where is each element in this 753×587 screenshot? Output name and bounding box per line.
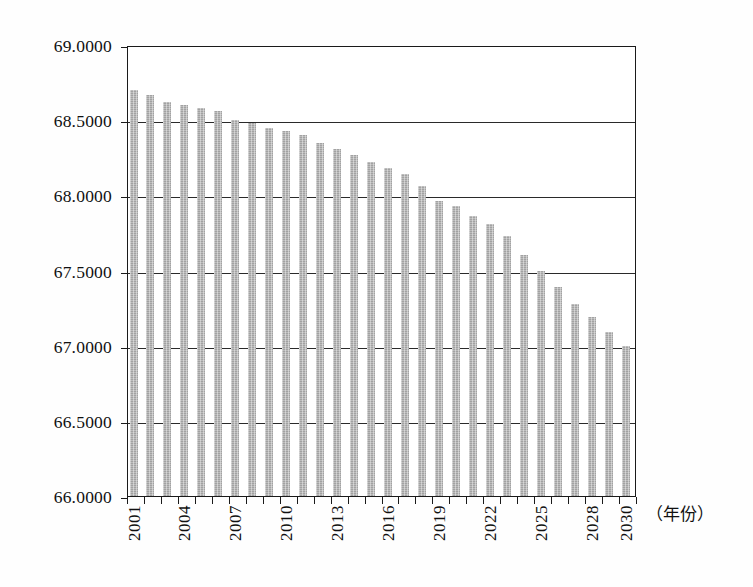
x-tick-label: 2010 [277, 505, 297, 541]
y-tick-mark [121, 273, 128, 274]
x-tick-mark [619, 497, 620, 504]
y-tick-label: 67.0000 [54, 336, 112, 357]
bar [265, 128, 273, 496]
x-tick-mark [229, 497, 230, 504]
bar [214, 111, 222, 496]
x-tick-label: 2016 [379, 505, 399, 541]
y-tick-mark [121, 423, 128, 424]
bar [282, 131, 290, 496]
y-tick-mark [121, 47, 128, 48]
x-tick-label: 2001 [125, 505, 145, 541]
x-tick-label: 2030 [617, 505, 637, 541]
x-tick-label: 2004 [175, 505, 195, 541]
bar [401, 174, 409, 496]
x-tick-mark [534, 497, 535, 504]
x-tick-label: 2007 [226, 505, 246, 541]
bar-chart-figure: 66.000066.500067.000067.500068.000068.50… [0, 0, 753, 587]
plot-area [127, 46, 636, 497]
x-tick-mark [263, 497, 264, 504]
bar [605, 332, 613, 496]
x-tick-label: 2019 [430, 505, 450, 541]
y-tick-label: 67.5000 [54, 261, 112, 282]
bar [554, 287, 562, 496]
x-tick-mark [280, 497, 281, 504]
bar [146, 95, 154, 496]
bar [180, 105, 188, 496]
x-tick-mark [195, 497, 196, 504]
x-axis-unit-label: （年份） [646, 500, 714, 525]
x-tick-mark [314, 497, 315, 504]
bar [537, 271, 545, 497]
bar [384, 168, 392, 496]
x-tick-mark [585, 497, 586, 504]
y-tick-label: 66.0000 [54, 487, 112, 508]
x-tick-label: 2025 [532, 505, 552, 541]
x-tick-label: 2028 [583, 505, 603, 541]
x-tick-label: 2013 [328, 505, 348, 541]
x-tick-mark [297, 497, 298, 504]
y-tick-label: 68.0000 [54, 186, 112, 207]
x-tick-mark [602, 497, 603, 504]
x-axis-labels: 2001200420072010201320162019202220252028… [127, 505, 636, 585]
bar [486, 224, 494, 496]
bar [163, 102, 171, 496]
bar [503, 236, 511, 496]
x-tick-mark [382, 497, 383, 504]
x-tick-mark [517, 497, 518, 504]
y-tick-mark [121, 122, 128, 123]
bar [588, 317, 596, 496]
x-tick-mark [568, 497, 569, 504]
y-tick-label: 66.5000 [54, 411, 112, 432]
x-tick-mark [161, 497, 162, 504]
x-tick-mark [127, 497, 128, 504]
bar [350, 155, 358, 496]
y-tick-label: 69.0000 [54, 36, 112, 57]
x-tick-mark [144, 497, 145, 504]
x-tick-mark [432, 497, 433, 504]
x-tick-mark [466, 497, 467, 504]
bar [299, 135, 307, 496]
x-tick-mark [636, 497, 637, 504]
x-tick-mark [415, 497, 416, 504]
x-tick-mark [449, 497, 450, 504]
bar [469, 216, 477, 496]
x-tick-mark [348, 497, 349, 504]
y-tick-mark [121, 197, 128, 198]
x-tick-label: 2022 [481, 505, 501, 541]
y-axis: 66.000066.500067.000067.500068.000068.50… [0, 0, 122, 587]
bar [435, 201, 443, 496]
bar [248, 123, 256, 496]
x-tick-mark [483, 497, 484, 504]
x-tick-mark [551, 497, 552, 504]
bar [452, 206, 460, 496]
bar [333, 149, 341, 496]
x-tick-mark [500, 497, 501, 504]
x-tick-mark [331, 497, 332, 504]
x-axis-ticks [127, 497, 636, 505]
x-tick-mark [398, 497, 399, 504]
bar [571, 304, 579, 496]
x-tick-mark [212, 497, 213, 504]
bars-layer [128, 47, 635, 496]
x-tick-mark [246, 497, 247, 504]
y-tick-label: 68.5000 [54, 111, 112, 132]
y-tick-mark [121, 348, 128, 349]
bar [418, 186, 426, 496]
x-tick-mark [178, 497, 179, 504]
bar [130, 90, 138, 496]
bar [231, 120, 239, 496]
bar [197, 108, 205, 496]
bar [367, 162, 375, 496]
bar [316, 143, 324, 496]
bar [520, 255, 528, 496]
x-tick-mark [365, 497, 366, 504]
bar [622, 346, 630, 496]
